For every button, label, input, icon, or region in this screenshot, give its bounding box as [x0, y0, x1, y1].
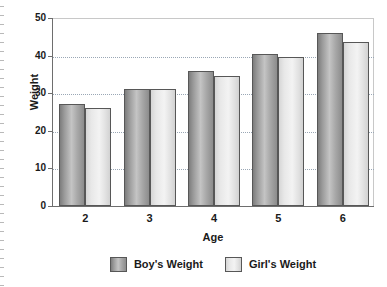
y-tick-label-20: 20	[20, 126, 46, 136]
x-tick-label-3: 3	[130, 212, 170, 224]
bar-boys-weight-age-2	[59, 104, 85, 206]
chart-legend: Boy's Weight Girl's Weight	[52, 253, 374, 275]
y-tick-mark-40	[48, 56, 52, 57]
legend-label-girls-weight: Girl's Weight	[249, 258, 316, 270]
y-tick-mark-50	[48, 18, 52, 19]
bar-group-age-2	[59, 18, 111, 206]
y-tick-label-40: 40	[20, 51, 46, 61]
x-tick-label-6: 6	[323, 212, 363, 224]
legend-swatch-icon-boys-weight	[110, 257, 127, 272]
legend-item-boys-weight: Boy's Weight	[110, 257, 203, 272]
y-axis-tick-labels: 01020304050	[18, 18, 46, 207]
bar-boys-weight-age-5	[252, 54, 278, 206]
bar-group-age-5	[252, 18, 304, 206]
y-tick-mark-10	[48, 168, 52, 169]
bar-group-age-3	[124, 18, 176, 206]
y-tick-label-10: 10	[20, 163, 46, 173]
bar-group-age-4	[188, 18, 240, 206]
bar-girls-weight-age-5	[278, 57, 304, 206]
x-tick-label-4: 4	[194, 212, 234, 224]
x-tick-label-5: 5	[258, 212, 298, 224]
bar-boys-weight-age-6	[317, 33, 343, 206]
x-axis-line	[48, 206, 374, 207]
bar-girls-weight-age-6	[343, 42, 369, 206]
y-tick-mark-20	[48, 131, 52, 132]
bar-chart-figure: Weight 01020304050 23456 Age Boy's Weigh…	[0, 0, 387, 287]
legend-label-boys-weight: Boy's Weight	[134, 258, 203, 270]
bar-boys-weight-age-3	[124, 89, 150, 206]
bar-girls-weight-age-4	[214, 76, 240, 206]
legend-item-girls-weight: Girl's Weight	[225, 257, 316, 272]
bar-boys-weight-age-4	[188, 71, 214, 206]
bar-girls-weight-age-3	[150, 89, 176, 206]
bar-series-container	[53, 18, 374, 206]
left-edge-ticks	[0, 0, 4, 287]
x-tick-label-2: 2	[65, 212, 105, 224]
bar-group-age-6	[317, 18, 369, 206]
x-axis-title: Age	[52, 231, 374, 243]
y-tick-label-30: 30	[20, 88, 46, 98]
y-tick-mark-0	[48, 206, 52, 207]
bar-girls-weight-age-2	[85, 108, 111, 206]
y-tick-label-0: 0	[20, 201, 46, 211]
legend-swatch-icon-girls-weight	[225, 257, 242, 272]
y-tick-mark-30	[48, 93, 52, 94]
y-tick-label-50: 50	[20, 13, 46, 23]
